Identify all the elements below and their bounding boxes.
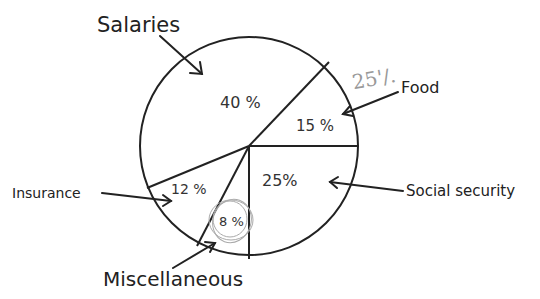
label-salaries: Salaries [97, 13, 180, 37]
pie-chart: 40 % 15 % 25% 12 % 8 % Salaries Food Soc… [0, 0, 540, 299]
slice-value-miscellaneous: 8 % [219, 214, 244, 229]
handwritten-note: 25'/. [350, 63, 398, 94]
slice-value-social-security: 25% [262, 171, 298, 190]
label-insurance: Insurance [12, 185, 81, 201]
slice-value-salaries: 40 % [220, 93, 261, 112]
slice-value-insurance: 12 % [171, 181, 207, 197]
label-social-security: Social security [406, 182, 515, 200]
label-food: Food [401, 78, 439, 97]
label-miscellaneous: Miscellaneous [103, 267, 243, 291]
slice-value-food: 15 % [296, 117, 334, 135]
